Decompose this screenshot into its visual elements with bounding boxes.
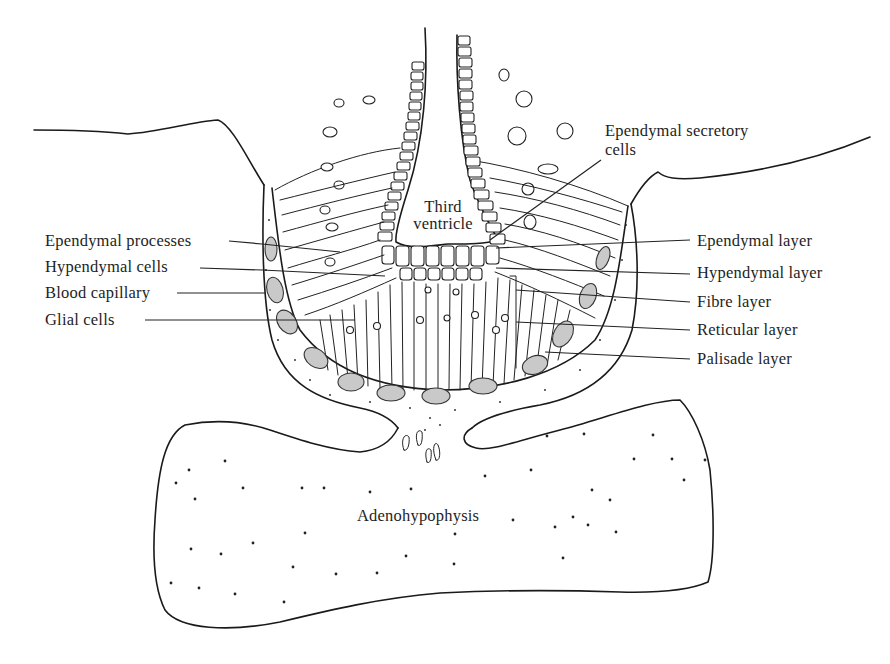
outer-contour-left — [34, 120, 264, 185]
label-adenohypophysis: Adenohypophysis — [357, 507, 479, 525]
label-hypendymal-cells: Hypendymal cells — [45, 258, 168, 276]
label-blood-capillary: Blood capillary — [45, 284, 150, 302]
label-ependymal-secretory-cells-line1: Ependymal secretory — [605, 122, 749, 140]
reticular-boundary — [510, 276, 516, 368]
label-ependymal-processes: Ependymal processes — [45, 232, 191, 250]
label-fibre-layer: Fibre layer — [697, 293, 771, 311]
label-hypendymal-layer: Hypendymal layer — [697, 264, 823, 282]
outer-contour-right — [631, 137, 870, 204]
label-ependymal-secretory-cells-line2: cells — [605, 141, 636, 159]
label-third-ventricle-line2: ventricle — [400, 215, 486, 233]
portal-vessels — [403, 431, 440, 463]
diagram-stage: Ependymal processes Hypendymal cells Blo… — [0, 0, 890, 664]
floor-cells — [382, 246, 499, 280]
label-palisade-layer: Palisade layer — [697, 350, 792, 368]
label-glial-cells: Glial cells — [45, 311, 115, 329]
secretory-droplets — [320, 69, 573, 266]
leader-lines-right — [490, 160, 690, 359]
label-reticular-layer: Reticular layer — [697, 321, 798, 339]
label-ependymal-layer: Ependymal layer — [697, 232, 812, 250]
